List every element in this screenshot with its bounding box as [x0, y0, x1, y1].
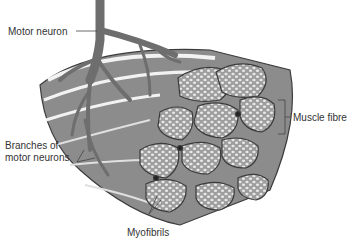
label-motor-neuron: Motor neuron [8, 26, 67, 38]
label-myofibrils: Myofibrils [127, 227, 169, 239]
label-branches-line2: motor neurons [5, 152, 69, 164]
label-branches-line1: Branches of [5, 140, 58, 152]
label-muscle-fibre: Muscle fibre [293, 112, 347, 124]
